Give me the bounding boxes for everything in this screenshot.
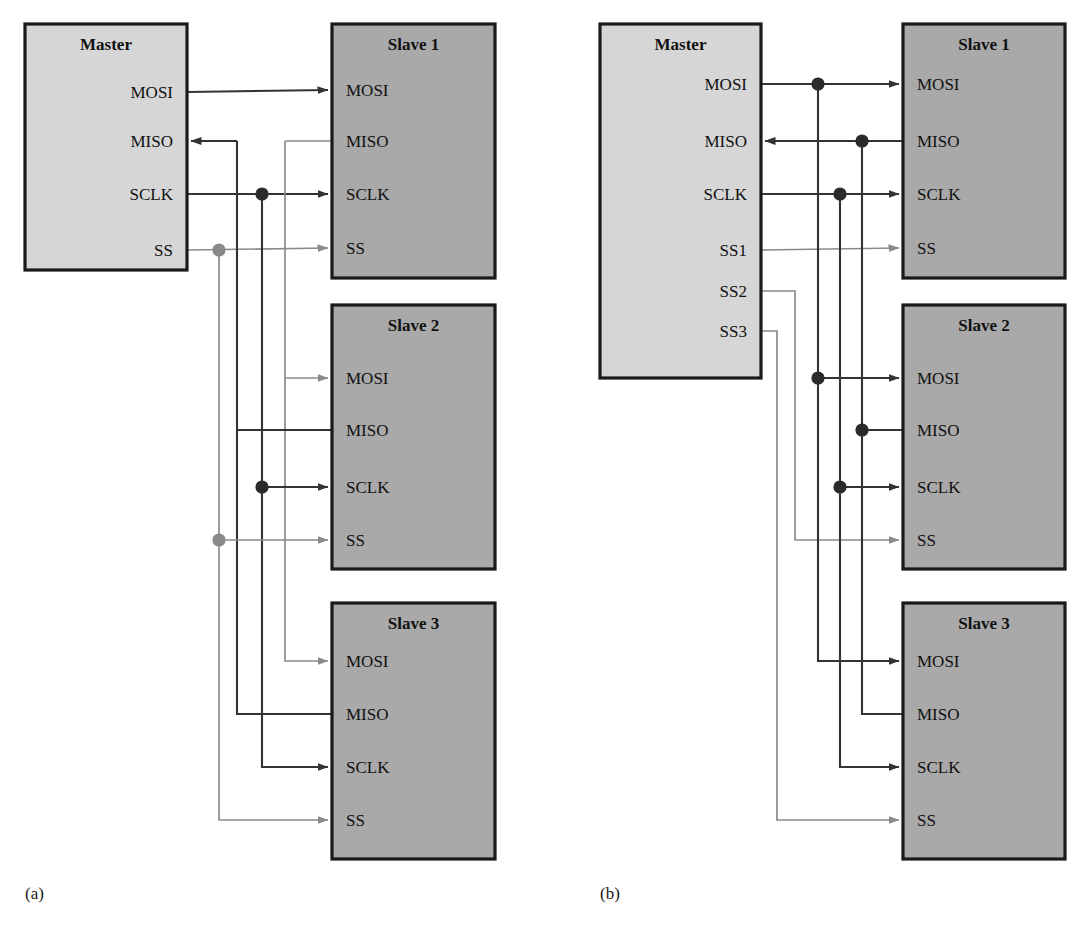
block-b-slave-2: Slave 2MOSIMISOSCLKSS xyxy=(903,305,1065,569)
slave-1-port-ss: SS xyxy=(917,239,936,258)
master-port-mosi: MOSI xyxy=(704,75,747,94)
master-title: Master xyxy=(80,35,132,54)
slave-2-port-ss: SS xyxy=(346,531,365,550)
slave-1-port-miso: MISO xyxy=(346,132,389,151)
junction-b-sclk-dot-slave2 xyxy=(833,480,846,493)
junction-b-mosi-dot-slave2 xyxy=(811,371,824,384)
slave-2-port-miso: MISO xyxy=(917,421,960,440)
slave-1-port-miso: MISO xyxy=(917,132,960,151)
block-b-master: MasterMOSIMISOSCLKSS1SS2SS3 xyxy=(600,24,761,378)
junction-b-miso-dot-slave1 xyxy=(855,134,868,147)
wire-b-master-ss2-to-slave2 xyxy=(761,291,899,540)
wire-b-mosi-bus xyxy=(818,84,899,661)
panel-caption-b: (b) xyxy=(600,884,620,904)
slave-3-title: Slave 3 xyxy=(388,614,439,633)
wire-a-master-mosi-to-slave1 xyxy=(187,90,328,92)
master-port-sclk: SCLK xyxy=(704,185,748,204)
slave-2-port-sclk: SCLK xyxy=(346,478,390,497)
master-port-sclk: SCLK xyxy=(130,185,174,204)
wire-a-ss-bus xyxy=(219,250,328,820)
slave-2-port-sclk: SCLK xyxy=(917,478,961,497)
wire-a-mosi-bus xyxy=(285,141,328,661)
block-a-slave-3: Slave 3MOSIMISOSCLKSS xyxy=(332,603,495,859)
wires-layer xyxy=(187,84,903,820)
junction-a-sclk-dot-slave1 xyxy=(255,187,268,200)
spi-bus-diagram: MasterMOSIMISOSCLKSSSlave 1MOSIMISOSCLKS… xyxy=(0,0,1080,930)
master-title: Master xyxy=(655,35,707,54)
junction-b-sclk-dot-slave1 xyxy=(833,187,846,200)
slave-3-port-sclk: SCLK xyxy=(346,758,390,777)
slave-1-title: Slave 1 xyxy=(388,35,439,54)
wire-a-sclk-bus xyxy=(262,194,328,767)
wire-b-miso-bus xyxy=(862,141,903,714)
slave-1-port-sclk: SCLK xyxy=(346,185,390,204)
panel-caption-a: (a) xyxy=(25,884,44,904)
slave-1-port-mosi: MOSI xyxy=(346,81,389,100)
slave-2-port-mosi: MOSI xyxy=(917,369,960,388)
slave-2-port-ss: SS xyxy=(917,531,936,550)
slave-2-title: Slave 2 xyxy=(958,316,1009,335)
slave-1-port-ss: SS xyxy=(346,239,365,258)
block-b-slave-3: Slave 3MOSIMISOSCLKSS xyxy=(903,603,1065,859)
slave-3-port-mosi: MOSI xyxy=(346,652,389,671)
slave-2-port-mosi: MOSI xyxy=(346,369,389,388)
junction-a-sclk-dot-slave2 xyxy=(255,480,268,493)
block-a-slave-2: Slave 2MOSIMISOSCLKSS xyxy=(332,305,495,569)
slave-3-port-sclk: SCLK xyxy=(917,758,961,777)
wire-b-master-ss3-to-slave3 xyxy=(761,331,899,820)
slave-2-title: Slave 2 xyxy=(388,316,439,335)
junction-a-ss-dot-slave1 xyxy=(212,243,225,256)
wire-b-master-ss1-to-slave1 xyxy=(761,248,899,250)
master-port-ss3: SS3 xyxy=(720,322,747,341)
block-b-slave-1: Slave 1MOSIMISOSCLKSS xyxy=(903,24,1065,278)
junction-b-miso-dot-slave2 xyxy=(855,423,868,436)
slave-3-port-mosi: MOSI xyxy=(917,652,960,671)
blocks-layer: MasterMOSIMISOSCLKSSSlave 1MOSIMISOSCLKS… xyxy=(25,24,1065,859)
slave-3-title: Slave 3 xyxy=(958,614,1009,633)
master-port-mosi: MOSI xyxy=(130,83,173,102)
slave-3-port-ss: SS xyxy=(346,811,365,830)
junction-a-ss-dot-slave2 xyxy=(212,533,225,546)
junction-b-mosi-dot-slave1 xyxy=(811,77,824,90)
slave-1-port-sclk: SCLK xyxy=(917,185,961,204)
master-port-miso: MISO xyxy=(704,132,747,151)
master-port-ss1: SS1 xyxy=(720,241,747,260)
master-port-ss2: SS2 xyxy=(720,282,747,301)
figure-canvas: MasterMOSIMISOSCLKSSSlave 1MOSIMISOSCLKS… xyxy=(0,0,1080,930)
master-port-miso: MISO xyxy=(130,132,173,151)
dots-layer xyxy=(212,77,868,546)
slave-1-title: Slave 1 xyxy=(958,35,1009,54)
slave-2-port-miso: MISO xyxy=(346,421,389,440)
slave-3-port-miso: MISO xyxy=(346,705,389,724)
slave-1-port-mosi: MOSI xyxy=(917,75,960,94)
slave-3-port-ss: SS xyxy=(917,811,936,830)
wire-b-sclk-bus xyxy=(840,194,899,767)
slave-3-port-miso: MISO xyxy=(917,705,960,724)
wire-a-master-ss-to-slave1 xyxy=(187,248,328,250)
block-a-master: MasterMOSIMISOSCLKSS xyxy=(25,24,187,270)
block-a-slave-1: Slave 1MOSIMISOSCLKSS xyxy=(332,24,495,278)
master-port-ss: SS xyxy=(154,241,173,260)
